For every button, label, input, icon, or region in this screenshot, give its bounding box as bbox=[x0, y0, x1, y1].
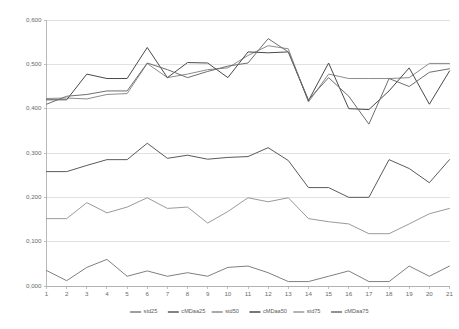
x-axis-tick-label: 18 bbox=[386, 290, 393, 297]
legend-item-cmdaa25[interactable]: cMDaa25 bbox=[168, 308, 205, 314]
chart-plot-area: 0,6000,5000,4000,3000,2000,1000,000 1234… bbox=[0, 0, 459, 329]
x-axis-tick-label: 8 bbox=[186, 290, 190, 297]
x-axis-tick-label: 9 bbox=[206, 290, 210, 297]
x-axis-tick-label: 13 bbox=[285, 290, 292, 297]
x-axis-tick-label: 2 bbox=[65, 290, 69, 297]
series-line-std25 bbox=[47, 259, 450, 281]
x-axis-tickmarks bbox=[47, 286, 450, 289]
x-axis-tick-label: 21 bbox=[446, 290, 453, 297]
series-line-std75 bbox=[47, 198, 450, 234]
chart-legend: std25cMDaa25std50cMDaa50std75cMDaa75 bbox=[130, 308, 368, 314]
x-axis-tick-label: 3 bbox=[85, 290, 89, 297]
legend-label-std25: std25 bbox=[144, 308, 158, 314]
legend-label-cmdaa75: cMDaa75 bbox=[345, 308, 369, 314]
x-axis-tick-label: 20 bbox=[426, 290, 433, 297]
x-axis-tick-label: 11 bbox=[245, 290, 252, 297]
x-axis-tick-label: 12 bbox=[265, 290, 272, 297]
x-axis-tick-label: 17 bbox=[365, 290, 372, 297]
legend-item-std25[interactable]: std25 bbox=[130, 308, 157, 314]
y-axis-tick-label: 0,600 bbox=[26, 16, 42, 23]
x-axis-tick-label: 1 bbox=[45, 290, 49, 297]
y-axis-tick-label: 0,300 bbox=[26, 149, 42, 156]
legend-item-cmdaa50[interactable]: cMDaa50 bbox=[249, 308, 286, 314]
series-line-cmdaa25 bbox=[47, 143, 450, 197]
x-axis-tick-label: 7 bbox=[166, 290, 170, 297]
x-axis-tick-labels: 123456789101112131415161718192021 bbox=[45, 290, 454, 297]
x-axis-tick-label: 15 bbox=[325, 290, 332, 297]
data-series-lines bbox=[47, 39, 450, 282]
x-axis-tick-label: 14 bbox=[305, 290, 312, 297]
x-axis-tick-label: 16 bbox=[345, 290, 352, 297]
y-axis-tick-label: 0,400 bbox=[26, 104, 42, 111]
legend-item-std50[interactable]: std50 bbox=[212, 308, 239, 314]
legend-label-std75: std75 bbox=[307, 308, 321, 314]
legend-item-cmdaa75[interactable]: cMDaa75 bbox=[331, 308, 368, 314]
y-axis-tick-label: 0,200 bbox=[26, 193, 42, 200]
x-axis-tick-label: 5 bbox=[125, 290, 129, 297]
y-axis-tick-label: 0,100 bbox=[26, 237, 42, 244]
y-axis-tick-label: 0,000 bbox=[26, 282, 42, 289]
series-line-std50 bbox=[47, 46, 450, 102]
line-chart-figure: 0,6000,5000,4000,3000,2000,1000,000 1234… bbox=[0, 0, 459, 329]
gridlines bbox=[47, 20, 450, 286]
legend-item-std75[interactable]: std75 bbox=[293, 308, 320, 314]
x-axis-tick-label: 19 bbox=[406, 290, 413, 297]
legend-label-std50: std50 bbox=[225, 308, 239, 314]
x-axis-tick-label: 6 bbox=[146, 290, 150, 297]
legend-label-cmdaa25: cMDaa25 bbox=[181, 308, 205, 314]
y-axis-tick-labels: 0,6000,5000,4000,3000,2000,1000,000 bbox=[26, 16, 46, 289]
y-axis-tick-label: 0,500 bbox=[26, 60, 42, 67]
x-axis-tick-label: 4 bbox=[105, 290, 109, 297]
x-axis-tick-label: 10 bbox=[224, 290, 231, 297]
legend-label-cmdaa50: cMDaa50 bbox=[263, 308, 287, 314]
